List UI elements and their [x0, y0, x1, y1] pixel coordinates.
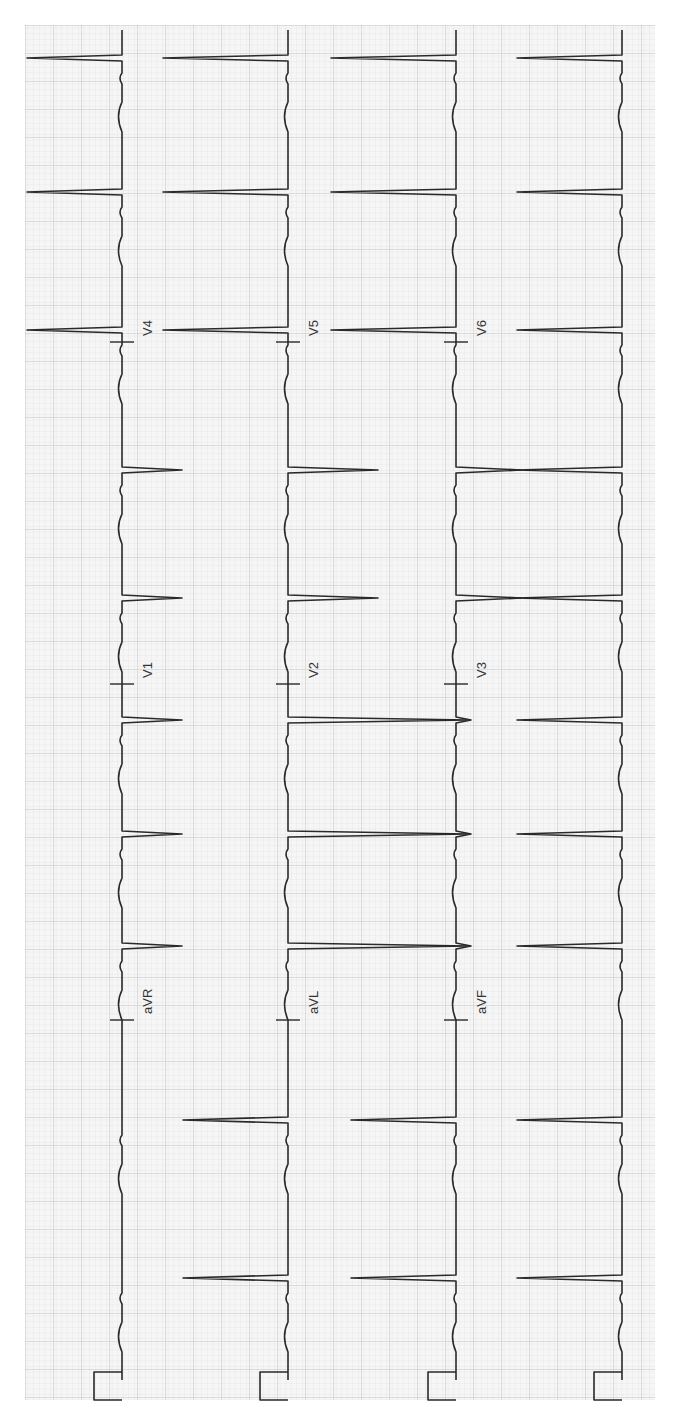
lead-label-avl: aVL [306, 991, 321, 1014]
lead-label-v4: V4 [140, 320, 155, 336]
lead-label-v5: V5 [306, 320, 321, 336]
lead-label-v6: V6 [474, 320, 489, 336]
lead-label-avr: aVR [140, 989, 155, 1014]
lead-label-v2: V2 [306, 662, 321, 678]
lead-label-v3: V3 [474, 662, 489, 678]
ecg-sheet: aVRaVLaVFV1V2V3V4V5V6 [0, 0, 674, 1425]
lead-label-avf: aVF [474, 990, 489, 1014]
lead-label-v1: V1 [140, 662, 155, 678]
